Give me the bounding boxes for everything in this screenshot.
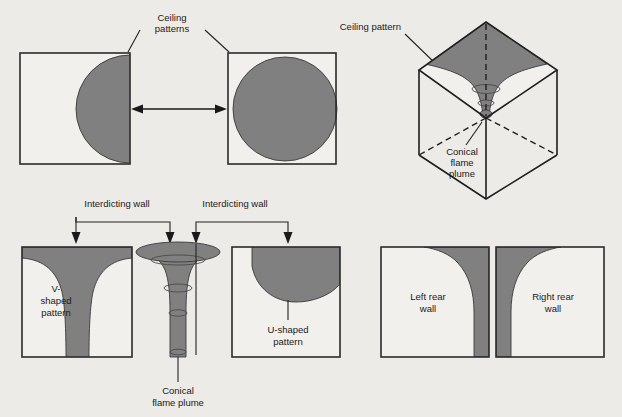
- right-rear-wall-box: Right rear wall: [496, 247, 604, 357]
- v-pattern-label-line1: V-: [52, 283, 61, 294]
- fire-pattern-figure: Ceiling patterns Ceiling pattern: [0, 0, 622, 417]
- right-rear-wall-label-line2: wall: [544, 303, 561, 314]
- u-shaped-pattern-box: U-shaped pattern: [232, 245, 340, 357]
- interdicting-wall-label-left: Interdicting wall: [84, 198, 149, 209]
- cube-plume-label-line3: plume: [449, 168, 475, 179]
- u-pattern-label-line1: U-shaped: [267, 324, 308, 335]
- left-rear-wall-label-line1: Left rear: [410, 291, 445, 302]
- u-pattern-label-line2: pattern: [273, 336, 303, 347]
- interdicting-wall-label-right: Interdicting wall: [202, 198, 267, 209]
- ceiling-pattern-right-box: [228, 53, 337, 164]
- plume-label-line1: Conical: [162, 385, 194, 396]
- left-rear-wall-box: Left rear wall: [381, 247, 489, 357]
- plume-label-line2: flame plume: [152, 397, 204, 408]
- v-shaped-pattern-box: V- shaped pattern: [22, 247, 132, 358]
- cube-plume-label-line2: flame: [450, 157, 473, 168]
- ceiling-patterns-label-line1: Ceiling: [157, 12, 186, 23]
- cube-ceiling-pattern-label: Ceiling pattern: [340, 21, 401, 32]
- plume-top-ellipse: [136, 242, 220, 262]
- right-box-circle-shade: [233, 57, 337, 161]
- ceiling-patterns-label-line2: patterns: [155, 23, 190, 34]
- v-pattern-label-line3: pattern: [41, 307, 71, 318]
- v-pattern-label-line2: shaped: [40, 295, 71, 306]
- left-rear-wall-label-line2: wall: [419, 303, 436, 314]
- figure-canvas: Ceiling patterns Ceiling pattern: [0, 0, 622, 417]
- cube-plume-label-line1: Conical: [446, 146, 478, 157]
- right-rear-wall-label-line1: Right rear: [532, 291, 574, 302]
